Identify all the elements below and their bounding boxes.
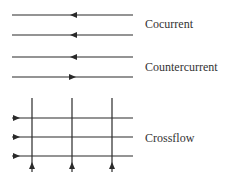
label-crossflow: Crossflow: [145, 131, 194, 146]
crossflow-streams: [12, 98, 133, 172]
flow-patterns-diagram: Cocurrent Countercurrent Crossflow: [0, 0, 226, 184]
arrow-up-icon: [109, 162, 115, 169]
cocurrent-streams: [12, 12, 133, 38]
arrow-right-icon: [13, 134, 20, 140]
arrow-left-icon: [70, 12, 77, 18]
arrow-left-icon: [70, 54, 77, 60]
arrow-right-icon: [13, 153, 20, 159]
arrow-left-icon: [70, 32, 77, 38]
countercurrent-streams: [12, 54, 133, 80]
label-cocurrent: Cocurrent: [145, 17, 193, 32]
label-countercurrent: Countercurrent: [145, 60, 218, 75]
arrow-right-icon: [69, 74, 76, 80]
arrow-right-icon: [13, 115, 20, 121]
arrow-up-icon: [29, 162, 35, 169]
arrow-up-icon: [69, 162, 75, 169]
